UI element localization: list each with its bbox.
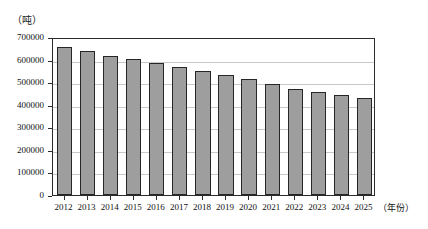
bar — [103, 56, 118, 195]
y-tick-mark — [48, 128, 52, 129]
y-tick-label: 600000 — [0, 56, 44, 65]
bar — [57, 47, 72, 195]
x-tick-label: 2017 — [170, 202, 188, 212]
y-tick-mark — [48, 61, 52, 62]
gridline — [53, 62, 374, 63]
x-tick-label: 2012 — [55, 202, 73, 212]
x-tick-mark — [64, 196, 65, 200]
x-tick-mark — [87, 196, 88, 200]
y-tick-mark — [48, 173, 52, 174]
x-tick-label: 2021 — [262, 202, 280, 212]
bar — [357, 98, 372, 196]
x-tick-label: 2015 — [124, 202, 142, 212]
plot-area — [52, 38, 375, 196]
y-tick-mark — [48, 151, 52, 152]
x-tick-mark — [225, 196, 226, 200]
x-tick-label: 2016 — [147, 202, 165, 212]
bar — [126, 59, 141, 195]
x-axis-unit-label: （年份） — [378, 201, 414, 214]
y-axis-unit-label: （吨） — [12, 12, 42, 27]
bar — [172, 67, 187, 195]
x-tick-mark — [294, 196, 295, 200]
x-tick-label: 2019 — [216, 202, 234, 212]
x-tick-mark — [133, 196, 134, 200]
x-tick-label: 2018 — [193, 202, 211, 212]
x-tick-mark — [340, 196, 341, 200]
y-tick-label: 500000 — [0, 78, 44, 87]
y-tick-label: 400000 — [0, 101, 44, 110]
bar — [80, 51, 95, 195]
x-tick-mark — [271, 196, 272, 200]
x-tick-mark — [317, 196, 318, 200]
bar — [334, 95, 349, 195]
bar — [218, 75, 233, 195]
x-tick-mark — [110, 196, 111, 200]
y-tick-label: 0 — [0, 191, 44, 200]
x-tick-label: 2025 — [354, 202, 372, 212]
x-tick-mark — [363, 196, 364, 200]
y-tick-mark — [48, 196, 52, 197]
y-tick-mark — [48, 83, 52, 84]
y-tick-mark — [48, 106, 52, 107]
x-tick-label: 2022 — [285, 202, 303, 212]
y-tick-label: 300000 — [0, 123, 44, 132]
x-tick-label: 2020 — [239, 202, 257, 212]
bar-chart: （吨） 010000020000030000040000050000060000… — [0, 0, 428, 229]
x-tick-label: 2014 — [101, 202, 119, 212]
x-tick-mark — [156, 196, 157, 200]
y-tick-label: 200000 — [0, 146, 44, 155]
x-tick-mark — [179, 196, 180, 200]
bar — [288, 89, 303, 195]
x-tick-label: 2013 — [78, 202, 96, 212]
y-tick-mark — [48, 38, 52, 39]
bar — [149, 63, 164, 195]
x-tick-label: 2024 — [331, 202, 349, 212]
bar — [195, 71, 210, 195]
y-tick-label: 100000 — [0, 168, 44, 177]
bar — [265, 84, 280, 195]
bar — [241, 79, 256, 195]
bar — [311, 92, 326, 195]
y-tick-label: 700000 — [0, 33, 44, 42]
x-tick-mark — [248, 196, 249, 200]
gridline — [53, 84, 374, 85]
x-tick-mark — [202, 196, 203, 200]
x-tick-label: 2023 — [308, 202, 326, 212]
